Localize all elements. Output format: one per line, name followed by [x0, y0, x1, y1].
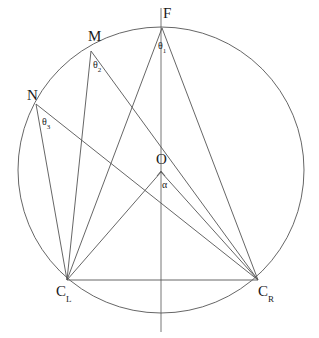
- geometry-figure: FMNOCLCRθ1θ2θ3α: [0, 0, 319, 338]
- point-label-n: N: [27, 88, 38, 103]
- point-label-cr: CR: [258, 284, 274, 302]
- segment-o-cl: [67, 172, 161, 280]
- segment-m-cr: [91, 51, 258, 280]
- segment-f-cl: [67, 28, 162, 280]
- segment-n-cl: [36, 104, 67, 280]
- point-label-o: O: [156, 152, 167, 167]
- angle-label-alpha: α: [162, 180, 167, 190]
- angle-label-theta1: θ1: [158, 41, 166, 54]
- segment-group: [36, 28, 258, 280]
- angle-label-theta2: θ2: [93, 60, 101, 73]
- point-label-cl: CL: [56, 284, 72, 302]
- angle-label-theta3: θ3: [42, 117, 50, 130]
- point-label-m: M: [88, 29, 101, 44]
- segment-m-cl: [67, 51, 91, 280]
- segment-o-cr: [161, 172, 258, 280]
- point-label-f: F: [163, 6, 171, 21]
